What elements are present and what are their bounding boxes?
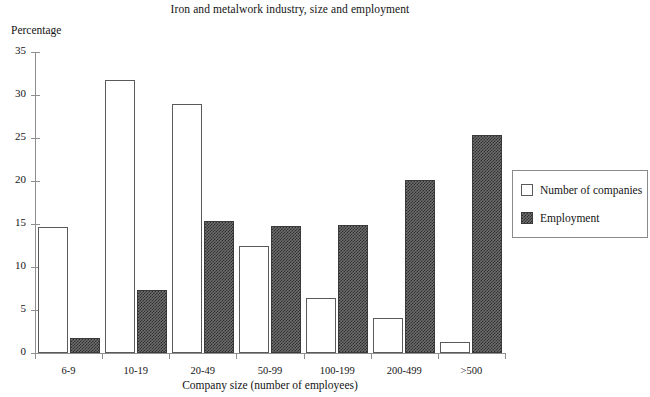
x-axis-label: Company size (number of employees) — [35, 379, 505, 391]
y-tick: 25 — [31, 138, 40, 139]
bar-employment-6-9 — [70, 338, 100, 353]
plot-area: 05101520253035 6-910-1920-4950-99100-199… — [35, 52, 505, 353]
legend-swatch-hatched-icon — [521, 212, 533, 224]
y-tick-label: 25 — [15, 130, 26, 142]
legend-swatch-open-icon — [521, 184, 533, 196]
x-tick — [438, 353, 439, 359]
x-category-label: 200-499 — [387, 365, 422, 376]
y-tick-label: 35 — [15, 44, 26, 56]
y-tick-label: 0 — [21, 345, 27, 357]
y-tick: 35 — [31, 52, 40, 53]
x-category-label: 10-19 — [123, 365, 148, 376]
x-category-label: 100-199 — [320, 365, 355, 376]
x-category-label: 50-99 — [258, 365, 283, 376]
y-tick: 20 — [31, 181, 40, 182]
x-tick — [304, 353, 305, 359]
x-tick — [236, 353, 237, 359]
bar-employment-50-99 — [271, 226, 301, 353]
x-category-label: 6-9 — [62, 365, 76, 376]
bar-companies-50-99 — [239, 246, 269, 353]
legend-label: Employment — [540, 212, 599, 224]
bar-companies-100-199 — [306, 298, 336, 353]
y-tick-label: 15 — [15, 216, 26, 228]
bar-employment-200-499 — [405, 180, 435, 353]
bar-employment-100-199 — [338, 225, 368, 353]
chart-legend: Number of companies Employment — [512, 170, 648, 238]
x-tick — [102, 353, 103, 359]
y-tick-label: 20 — [15, 173, 26, 185]
chart-figure: Iron and metalwork industry, size and em… — [0, 0, 650, 397]
y-tick: 30 — [31, 95, 40, 96]
bar-employment-10-19 — [137, 290, 167, 353]
x-tick — [371, 353, 372, 359]
legend-item-employment: Employment — [521, 208, 641, 227]
bar-employment-20-49 — [204, 221, 234, 353]
x-tick — [505, 353, 506, 359]
y-tick-label: 30 — [15, 87, 26, 99]
x-category-label: >500 — [461, 365, 483, 376]
bar-companies-6-9 — [38, 227, 68, 353]
bar-companies-10-19 — [105, 80, 135, 353]
y-tick: 15 — [31, 224, 40, 225]
bar-employment->500 — [472, 135, 502, 353]
bar-companies-20-49 — [172, 104, 202, 353]
y-axis-line — [35, 52, 36, 354]
bar-companies-200-499 — [373, 318, 403, 353]
legend-item-number-of-companies: Number of companies — [521, 180, 641, 199]
x-axis-line — [35, 353, 506, 354]
y-axis-label: Percentage — [11, 24, 61, 36]
x-category-label: 20-49 — [191, 365, 216, 376]
legend-label: Number of companies — [540, 184, 642, 196]
chart-title: Iron and metalwork industry, size and em… — [0, 3, 580, 15]
y-tick-label: 5 — [21, 302, 27, 314]
x-tick — [169, 353, 170, 359]
bar-companies->500 — [440, 342, 470, 353]
x-tick — [35, 353, 36, 359]
y-tick-label: 10 — [15, 259, 26, 271]
